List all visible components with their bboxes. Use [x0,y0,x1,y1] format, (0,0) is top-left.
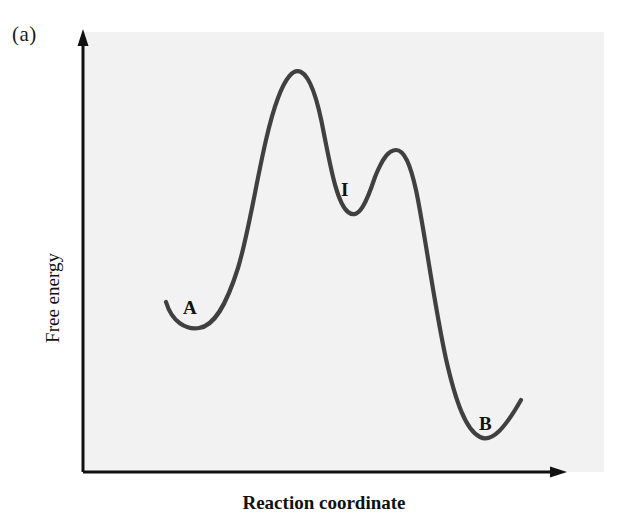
state-label-i: I [341,180,348,199]
x-axis-label: Reaction coordinate [84,492,564,514]
energy-curve-group [0,0,641,528]
y-axis-label: Free energy [42,218,64,378]
state-label-b: B [479,414,492,433]
free-energy-curve [166,71,521,438]
state-label-a: A [183,298,197,317]
free-energy-diagram-figure: (a) Free energy Reaction coordinate A I … [0,0,641,528]
